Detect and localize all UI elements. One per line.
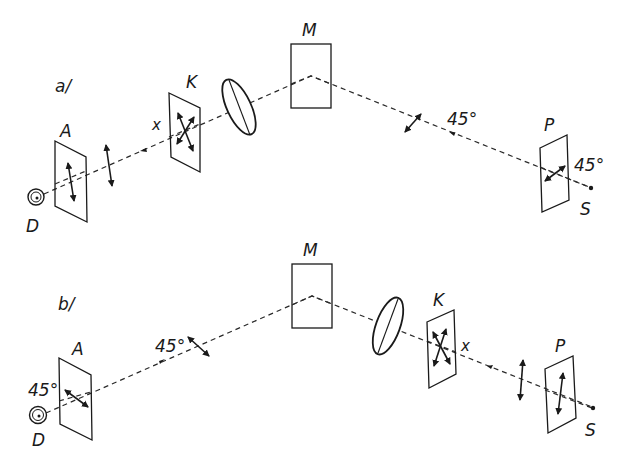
- compensator-label: K: [186, 72, 199, 92]
- panel-b-label: b/: [58, 294, 77, 314]
- mirror-label: M: [302, 20, 317, 40]
- source-icon: [589, 186, 593, 190]
- polarization-arrow-icon: [106, 145, 112, 186]
- panel-a-label: a/: [55, 76, 73, 96]
- angle-label-a-mid: 45°: [447, 109, 477, 129]
- ellipsometer-diagram: a/ D A K x M: [0, 0, 617, 470]
- polarization-arrow-icon: [405, 114, 421, 132]
- polarization-arrow-icon: [558, 373, 563, 414]
- polarizer-label: P: [555, 336, 566, 356]
- source-label: S: [580, 199, 591, 219]
- elliptical-polarization-icon: [215, 75, 262, 140]
- polarization-arrow-icon: [177, 117, 194, 144]
- analyzer-label: A: [71, 339, 84, 359]
- panel-a: a/ D A K x M: [26, 20, 604, 236]
- polarization-arrow-icon: [545, 166, 565, 181]
- angle-label-b-analyzer: 45°: [28, 380, 58, 400]
- detector-label: D: [26, 216, 39, 236]
- mirror-label: M: [303, 240, 318, 260]
- compensator-axis-label: x: [460, 337, 470, 355]
- detector-icon: [30, 407, 47, 424]
- analyzer-label: A: [59, 121, 72, 141]
- panel-b: b/ D A 45° 45° M K: [28, 240, 596, 450]
- analyzer-plate: [59, 358, 92, 440]
- compensator-axis-label: x: [151, 116, 161, 134]
- detector-label: D: [32, 430, 45, 450]
- angle-label-a-polarizer: 45°: [574, 155, 604, 175]
- compensator-label: K: [433, 290, 446, 310]
- polarizer-label: P: [544, 115, 555, 135]
- beam-path-a: [44, 76, 589, 194]
- source-label: S: [585, 420, 596, 440]
- beam-path-b: [46, 296, 592, 413]
- elliptical-polarization-icon: [366, 294, 409, 359]
- beam-direction-icon: [140, 148, 147, 152]
- detector-icon: [28, 189, 44, 205]
- polarization-arrow-icon: [188, 337, 209, 356]
- beam-direction-icon: [448, 130, 455, 136]
- source-icon: [591, 406, 595, 410]
- angle-label-b-mid: 45°: [155, 336, 185, 356]
- polarization-arrow-icon: [68, 163, 74, 201]
